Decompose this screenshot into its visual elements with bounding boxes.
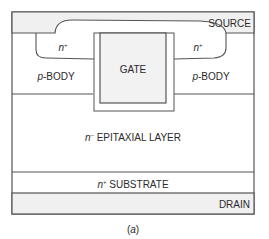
p-body-left-label: p-BODY [36,71,75,82]
drain-metal [12,193,254,214]
drain-label: DRAIN [219,199,250,210]
mosfet-cross-section-diagram: SOURCE GATE n+ n+ p-BODY p-BODY n– EPITA… [0,0,269,239]
figure-caption: (a) [127,224,139,235]
p-body-right-label: p-BODY [191,71,230,82]
substrate-label: n+ SUBSTRATE [97,179,168,190]
source-label: SOURCE [208,18,251,29]
gate-label: GATE [120,64,147,75]
epitaxial-layer-label: n– EPITAXIAL LAYER [85,132,181,143]
